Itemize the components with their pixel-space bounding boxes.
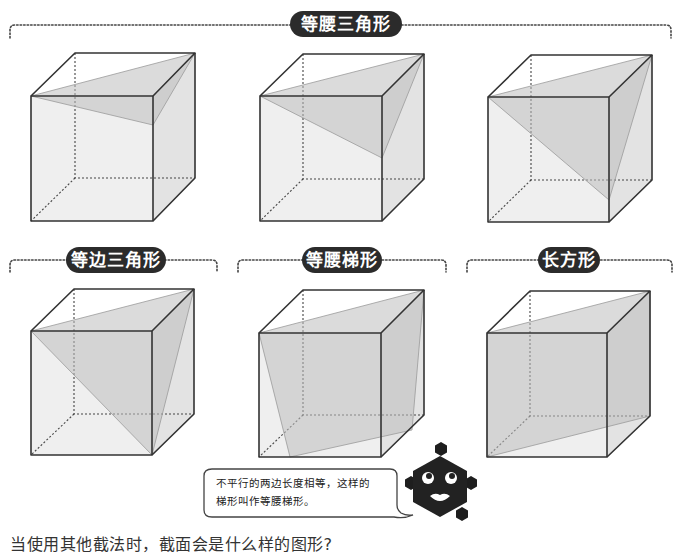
cube-isosceles-2 [260, 54, 424, 221]
label-isosceles-trapezoid: 等腰梯形 [302, 247, 382, 273]
cube-equilateral [31, 289, 194, 455]
cube-isosceles-1 [31, 53, 195, 221]
cube-trapezoid [259, 290, 424, 457]
cube-isosceles-3 [488, 55, 652, 222]
speech-bubble-line1: 不平行的两边长度相等，这样的 [216, 474, 370, 492]
caption-text: 当使用其他截法时，截面会是什么样的图形? [10, 531, 333, 555]
cube-rectangle [487, 291, 650, 457]
label-equilateral-triangle: 等边三角形 [66, 247, 166, 273]
label-rectangle: 长方形 [538, 247, 600, 273]
speech-bubble-line2: 梯形叫作等腰梯形。 [216, 492, 315, 510]
label-isosceles-triangle: 等腰三角形 [290, 11, 402, 37]
robot-mascot-icon [405, 442, 477, 521]
